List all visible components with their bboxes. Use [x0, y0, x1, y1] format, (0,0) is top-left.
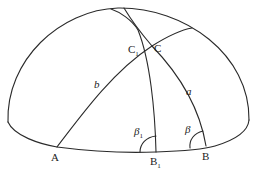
- point-c-label: C: [154, 43, 161, 54]
- point-a-label: A: [51, 152, 59, 163]
- dome-outline: [8, 8, 249, 122]
- point-b-label: B: [202, 151, 209, 162]
- angle-beta-label: β: [185, 124, 190, 135]
- point-c1-label: C1: [128, 44, 139, 55]
- base-curve: [8, 120, 249, 152]
- point-b1-label: B1: [150, 156, 161, 167]
- arc-a-label: a: [186, 86, 192, 97]
- arc-b-label: b: [94, 79, 100, 90]
- angle-beta1-label: β1: [134, 126, 143, 137]
- arc-b: [57, 28, 192, 147]
- diagram-lines: [0, 0, 253, 174]
- spherical-triangle-diagram: A B1 B C C1 b a β1 β: [0, 0, 253, 174]
- angle-beta-mark: [190, 131, 203, 148]
